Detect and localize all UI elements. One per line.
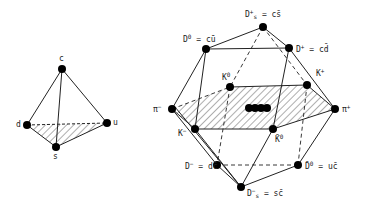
edge-Dsminus-D0bar (241, 165, 298, 187)
label-d: d (16, 121, 21, 129)
label-piminus: π− (153, 104, 161, 114)
edge-c-u (62, 69, 107, 123)
label-Dminus: D− = dc̄ (185, 161, 218, 171)
label-D0: D0 = cū (183, 34, 216, 44)
label-K0: K0 (222, 72, 230, 82)
edge-D0-Dplus (206, 48, 289, 49)
vertex-Dsplus (259, 23, 267, 31)
vertex-Kminus (191, 125, 199, 133)
edge-Dminus-Dsminus (217, 165, 241, 187)
label-c: c (59, 55, 64, 63)
vertex-s (52, 143, 60, 151)
diagram-canvas (0, 0, 367, 210)
label-Dsplus: D+s = cs̄ (245, 9, 281, 20)
label-piplus: π+ (342, 104, 350, 114)
label-Kplus: K+ (316, 68, 324, 78)
label-Dsminus: D−s = sc̄ (247, 188, 283, 199)
edge-Kminus-Dsminus (195, 129, 241, 187)
tetrahedron (23, 65, 111, 151)
vertex-D0bar (294, 161, 302, 169)
edge-c-d (27, 69, 62, 125)
edge-Dsplus-K0 (230, 27, 263, 87)
label-u: u (113, 119, 118, 127)
vertex-K0 (226, 83, 234, 91)
label-D0bar: D̄0 = uc̄ (305, 161, 338, 171)
label-s: s (53, 153, 58, 161)
label-Dplus: D+ = cd̄ (296, 44, 329, 54)
vertex-Dplus (285, 44, 293, 52)
vertex-K0bar (269, 125, 277, 133)
vertex-u (103, 119, 111, 127)
edge-Dsplus-Kplus (263, 27, 307, 85)
label-Kminus: K− (178, 128, 186, 138)
edge-K0bar-Dsminus (241, 129, 273, 187)
vertex-D0 (202, 45, 210, 53)
label-K0bar: K̄0 (275, 134, 283, 144)
vertex-d (23, 121, 31, 129)
vertex-c (58, 65, 66, 73)
vertex-piplus (331, 105, 339, 113)
tetra-base-hatch (27, 123, 107, 147)
vertex-Kplus (303, 81, 311, 89)
vertex-piminus (168, 105, 176, 113)
vertex-Dsminus (237, 183, 245, 191)
